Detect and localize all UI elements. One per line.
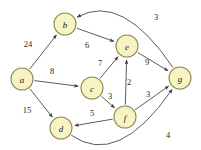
node-label-g: g (178, 74, 183, 84)
node-label-c: c (90, 84, 94, 94)
node-label-e: e (125, 42, 129, 52)
nodes-layer: abcdefg (11, 13, 191, 139)
node-c[interactable]: c (81, 77, 103, 99)
edge-e-g (138, 52, 168, 70)
edge-weight-g-b: 3 (154, 12, 158, 22)
node-e[interactable]: e (116, 35, 138, 57)
edge-weight-f-d: 5 (90, 108, 94, 118)
edge-weight-b-e: 6 (85, 40, 89, 50)
node-f[interactable]: f (114, 106, 136, 128)
node-d[interactable]: d (50, 117, 72, 139)
node-g[interactable]: g (169, 67, 191, 89)
edge-b-e (77, 28, 114, 41)
edge-weight-c-f: 3 (108, 91, 112, 101)
edge-weight-c-e: 7 (98, 58, 102, 68)
edge-a-d (30, 89, 52, 117)
edge-weight-f-g: 3 (146, 89, 150, 99)
edge-weight-e-g: 9 (145, 57, 149, 67)
weight-labels-layer: 24815673293534 (23, 12, 171, 140)
graph-figure: abcdefg 24815673293534 (0, 0, 201, 150)
edge-weight-a-c: 8 (50, 66, 54, 76)
node-label-d: d (59, 124, 64, 134)
edge-weight-a-b: 24 (24, 39, 33, 49)
edge-a-b (30, 35, 57, 69)
edge-f-d (75, 119, 113, 126)
edge-c-e (100, 57, 118, 79)
edge-weight-a-d: 15 (23, 105, 32, 115)
graph-canvas: abcdefg 24815673293534 (0, 0, 201, 150)
node-label-b: b (63, 20, 68, 30)
edge-weight-d-g: 4 (166, 130, 171, 140)
node-a[interactable]: a (11, 68, 33, 90)
edge-weight-f-e: 2 (127, 77, 131, 87)
node-label-a: a (20, 75, 25, 85)
node-b[interactable]: b (54, 13, 76, 35)
edge-a-c (34, 81, 78, 87)
edge-f-g (135, 86, 168, 110)
